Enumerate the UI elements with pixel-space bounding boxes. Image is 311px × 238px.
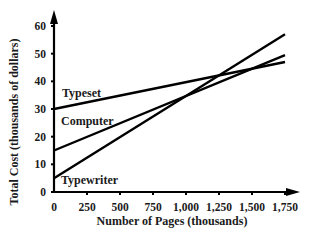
- y-ticks: 0102030405060: [35, 20, 55, 198]
- y-tick-label: 10: [35, 158, 47, 170]
- x-tick-label: 500: [111, 201, 129, 213]
- x-tick-label: 1,000: [173, 201, 199, 213]
- y-tick-label: 50: [35, 48, 47, 60]
- series-line-typewriter: [54, 34, 285, 178]
- series-lines: [54, 34, 285, 178]
- x-tick-label: 750: [144, 201, 162, 213]
- y-tick-label: 40: [35, 75, 47, 87]
- x-axis: [54, 188, 300, 196]
- y-tick-label: 30: [35, 103, 47, 115]
- y-tick-label: 0: [40, 186, 46, 198]
- x-axis-title: Number of Pages (thousands): [97, 214, 248, 228]
- y-tick-label: 20: [35, 131, 47, 143]
- line-chart: 0102030405060 02505007501,0001,2501,5001…: [0, 0, 311, 238]
- x-axis-arrow-icon: [286, 188, 300, 196]
- y-tick-label: 60: [35, 20, 47, 32]
- series-label-typeset: Typeset: [62, 86, 101, 100]
- y-axis-arrow-icon: [50, 10, 58, 24]
- x-tick-label: 1,500: [239, 201, 265, 213]
- series-label-typewriter: Typewriter: [61, 173, 119, 187]
- x-tick-label: 1,250: [206, 201, 232, 213]
- x-tick-label: 1,750: [272, 201, 298, 213]
- series-label-computer: Computer: [61, 114, 114, 128]
- y-axis-title: Total Cost (thousands of dollars): [7, 39, 21, 206]
- x-tick-label: 250: [78, 201, 96, 213]
- x-ticks: 02505007501,0001,2501,5001,750: [51, 192, 298, 213]
- x-tick-label: 0: [51, 201, 57, 213]
